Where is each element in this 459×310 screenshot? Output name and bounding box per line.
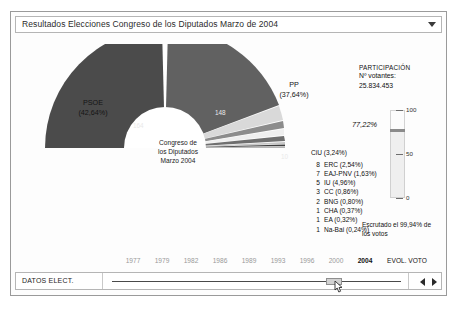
- pp-callout: PP (37,64%): [267, 80, 321, 99]
- year-label-1996[interactable]: 1996: [300, 257, 315, 264]
- psoe-label: PSOE: [61, 98, 125, 108]
- participation-gauge: 100 50 0 77,22%: [352, 104, 438, 208]
- mouse-cursor-icon: [334, 281, 346, 293]
- gauge-tick-label-0: 0: [406, 194, 409, 201]
- datos-elect-button[interactable]: DATOS ELECT.: [22, 277, 74, 284]
- toolbar-divider-right: [408, 273, 409, 289]
- evol-voto-label[interactable]: EVOL. VOTO: [387, 257, 427, 264]
- election-results-window: Resultados Elecciones Congreso de los Di…: [10, 11, 447, 296]
- voters-label: Nº votantes:: [359, 71, 438, 81]
- window-title-bar[interactable]: Resultados Elecciones Congreso de los Di…: [15, 16, 442, 33]
- voters-value: 25.834.453: [359, 81, 438, 91]
- center-line-2: los Diputados: [133, 147, 223, 156]
- psoe-seat-count: 164: [133, 122, 144, 129]
- gauge-value-label: 77,22%: [352, 120, 377, 129]
- gauge-tick-label-50: 50: [406, 150, 413, 157]
- year-label-1977[interactable]: 1977: [126, 257, 141, 264]
- triangle-left-icon[interactable]: [420, 278, 425, 286]
- year-label-2004[interactable]: 2004: [358, 257, 373, 264]
- gauge-fill: [390, 129, 405, 198]
- year-label-1989[interactable]: 1989: [242, 257, 257, 264]
- timeline-years: 1977 1979 1982 1986 1989 1993 1996 2000 …: [15, 257, 442, 269]
- chart-center-label: Congreso de los Diputados Marzo 2004: [133, 138, 223, 165]
- gauge-tick-0: [396, 198, 403, 199]
- timeline-step-controls: [420, 278, 437, 286]
- legend-seats: 8: [311, 160, 320, 169]
- center-line-3: Marzo 2004: [133, 156, 223, 165]
- legend-seats: 2: [311, 197, 320, 206]
- triangle-right-icon[interactable]: [432, 278, 437, 286]
- participation-panel: PARTICIPACIÓN Nº votantes: 25.834.453: [352, 64, 438, 90]
- ciu-seat-count: 10: [281, 153, 288, 160]
- year-label-1986[interactable]: 1986: [213, 257, 228, 264]
- year-label-1982[interactable]: 1982: [184, 257, 199, 264]
- counted-votes-note: Escrutado el 99,94% de los votos: [362, 220, 436, 238]
- year-label-1979[interactable]: 1979: [155, 257, 170, 264]
- year-label-1993[interactable]: 1993: [271, 257, 286, 264]
- chart-canvas: Congreso de los Diputados Marzo 2004 PSO…: [15, 36, 442, 249]
- legend-seats: 5: [311, 178, 320, 187]
- page-title: Resultados Elecciones Congreso de los Di…: [22, 19, 278, 29]
- pp-percent: (37,64%): [267, 90, 321, 100]
- pp-seat-count: 148: [215, 109, 226, 116]
- legend-seats: 1: [311, 225, 320, 234]
- center-line-1: Congreso de: [133, 138, 223, 147]
- gauge-level-marker: [390, 129, 405, 132]
- timeline-slider-track[interactable]: [112, 281, 401, 284]
- psoe-callout: PSOE (42,64%): [61, 98, 125, 117]
- gauge-tick-100: [396, 110, 403, 111]
- chevron-down-icon[interactable]: [428, 22, 436, 27]
- legend-seats: 1: [311, 215, 320, 224]
- legend-seats: 3: [311, 187, 320, 196]
- pp-label: PP: [267, 80, 321, 90]
- hemicycle-svg: [31, 44, 299, 192]
- toolbar-divider: [102, 273, 103, 289]
- legend-seats: 1: [311, 206, 320, 215]
- bottom-toolbar: DATOS ELECT.: [15, 272, 442, 290]
- year-label-2000[interactable]: 2000: [329, 257, 344, 264]
- participation-heading: PARTICIPACIÓN: [359, 64, 438, 71]
- legend-seats: 7: [311, 169, 320, 178]
- psoe-percent: (42,64%): [61, 108, 125, 118]
- gauge-tick-50: [396, 154, 403, 155]
- gauge-tick-label-100: 100: [406, 106, 416, 113]
- seats-hemicycle-chart[interactable]: [31, 44, 299, 192]
